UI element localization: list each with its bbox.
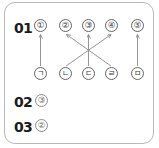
- option-top-3[interactable]: ③: [82, 19, 95, 32]
- connector-kr2-to-opt4: [66, 35, 111, 67]
- option-top-5[interactable]: ⑤: [131, 19, 144, 32]
- option-bottom-4[interactable]: ㄹ: [105, 67, 118, 80]
- answer-03[interactable]: ②: [35, 119, 48, 132]
- answer-02[interactable]: ③: [35, 94, 48, 107]
- question-number-02: 02: [14, 95, 32, 109]
- question-number-01: 01: [14, 21, 32, 35]
- option-top-1[interactable]: ①: [34, 19, 47, 32]
- option-bottom-5[interactable]: ㅁ: [131, 67, 144, 80]
- option-top-2[interactable]: ②: [59, 19, 72, 32]
- answer-sheet-card: 01 ① ② ③ ④ ⑤ ㄱ ㄴ ㄷ ㄹ ㅁ 02 ③ 03 ②: [4, 2, 154, 144]
- connector-kr4-to-opt2: [67, 35, 112, 67]
- option-bottom-1[interactable]: ㄱ: [34, 67, 47, 80]
- option-bottom-3[interactable]: ㄷ: [82, 67, 95, 80]
- option-bottom-2[interactable]: ㄴ: [59, 67, 72, 80]
- question-number-03: 03: [14, 120, 32, 134]
- option-top-4[interactable]: ④: [105, 19, 118, 32]
